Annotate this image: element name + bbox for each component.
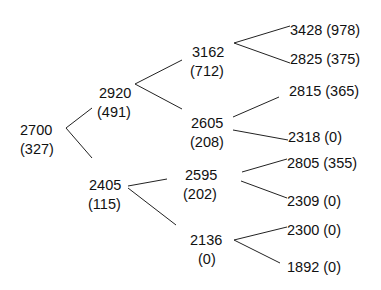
edge-ud-down — [233, 130, 288, 140]
edge-ud-up — [233, 97, 279, 117]
leaf-uud: 2825 (375) — [290, 51, 360, 67]
node-d-sub: (115) — [88, 196, 121, 212]
binomial-tree-diagram: 2700 (327) 2920 (491) 2405 (115) 3162 (7… — [0, 0, 381, 290]
edge-d-up — [128, 179, 167, 186]
edge-dd-down — [234, 240, 280, 263]
node-dd-sub: (0) — [198, 251, 216, 267]
node-root-value: 2700 — [20, 122, 52, 138]
node-uu-sub: (712) — [190, 63, 224, 79]
edge-du-up — [242, 159, 287, 172]
edge-du-down — [241, 181, 287, 198]
node-dd-value: 2136 — [190, 232, 222, 248]
node-uu-value: 3162 — [192, 44, 224, 60]
node-root-sub: (327) — [20, 141, 54, 157]
leaf-ddd: 1892 (0) — [287, 259, 341, 275]
leaf-duu: 2805 (355) — [287, 155, 357, 171]
leaf-ddu: 2300 (0) — [287, 222, 341, 238]
leaf-udd: 2318 (0) — [288, 129, 342, 145]
leaf-uuu: 3428 (978) — [290, 22, 360, 38]
edge-root-up — [66, 108, 92, 128]
node-ud-sub: (208) — [190, 134, 224, 150]
edge-u-up — [135, 60, 182, 84]
edge-u-down — [135, 84, 182, 109]
node-d-value: 2405 — [89, 177, 121, 193]
node-ud-value: 2605 — [191, 115, 223, 131]
leaf-dud: 2309 (0) — [287, 193, 341, 209]
edge-uu-up — [234, 26, 290, 43]
leaf-udu: 2815 (365) — [289, 83, 359, 99]
node-u-value: 2920 — [99, 85, 131, 101]
edge-d-down — [128, 188, 176, 225]
edge-dd-up — [234, 227, 287, 240]
edge-uu-down — [234, 43, 290, 63]
node-du-sub: (202) — [183, 186, 217, 202]
edge-root-down — [66, 128, 92, 158]
node-du-value: 2595 — [185, 167, 217, 183]
node-u-sub: (491) — [97, 104, 131, 120]
